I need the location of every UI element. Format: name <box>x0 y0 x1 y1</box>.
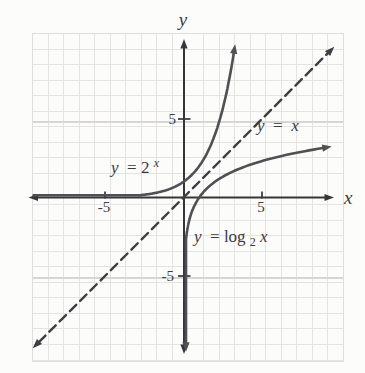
figure-canvas: x y -5 5 5 -5 y = 2 x y = x y = log 2 x <box>0 0 365 373</box>
graph-plot: x y -5 5 5 -5 y = 2 x y = x y = log 2 x <box>0 0 365 373</box>
y-tick-label-5: 5 <box>169 111 177 127</box>
exponential-label-exponent: x <box>153 156 160 170</box>
curve-arrowhead-icon <box>322 145 332 152</box>
axes <box>33 45 330 350</box>
y-axis-top-arrow-icon <box>180 39 187 49</box>
x-tick-label-neg5: -5 <box>98 199 111 215</box>
log-label: y = log 2 x <box>192 227 268 250</box>
x-tick-label-5: 5 <box>257 199 265 215</box>
log-label-base: 2 <box>250 235 256 249</box>
exponential-label-var: y <box>109 158 119 177</box>
exponential-label-eq: = 2 <box>123 158 150 177</box>
identity-label-var: y <box>255 116 265 135</box>
x-axis-label: x <box>343 187 353 208</box>
exponential-label: y = 2 x <box>109 156 160 177</box>
curve-arrowhead-icon <box>230 44 237 54</box>
x-axis-right-arrow-icon <box>325 194 335 201</box>
plot-text: x y -5 5 5 -5 y = 2 x y = x y = log 2 x <box>98 9 353 284</box>
y-tick-label-neg5: -5 <box>162 268 175 284</box>
log-label-var: y <box>192 227 202 246</box>
y-axis-label: y <box>177 9 188 30</box>
log-label-eq: = log <box>206 227 246 246</box>
identity-label: y = x <box>255 116 299 135</box>
log-label-arg: x <box>259 227 268 246</box>
identity-label-arg: x <box>290 116 299 135</box>
identity-label-eq: = <box>269 116 287 135</box>
